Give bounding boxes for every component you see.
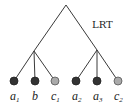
leaf-label-b: b (32, 89, 38, 103)
root-label: LRT (92, 19, 113, 30)
tree-diagram: LRT a1 b c1 a2 a3 c2 (0, 0, 131, 105)
edge-left-a1 (14, 51, 34, 81)
leaf-label-c2: c2 (114, 89, 123, 104)
leaf-label-a3: a3 (93, 89, 103, 104)
leaf-node-c1 (51, 77, 59, 85)
leaf-node-a1 (10, 77, 18, 85)
edge-left-c1 (34, 51, 55, 81)
leaf-label-a2: a2 (72, 89, 82, 104)
edge-right-c2 (97, 50, 118, 81)
leaf-label-a1: a1 (10, 89, 20, 104)
leaf-node-c2 (114, 77, 122, 85)
leaf-label-c1: c1 (51, 89, 60, 104)
edge-root-left (34, 5, 66, 51)
edge-left-b (34, 51, 35, 81)
leaf-node-b (31, 77, 39, 85)
leaf-node-a3 (93, 77, 101, 85)
edge-right-a2 (76, 50, 97, 81)
leaf-node-a2 (72, 77, 80, 85)
